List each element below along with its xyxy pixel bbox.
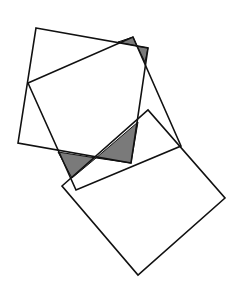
square-rotated [28, 37, 181, 190]
shaded-regions [58, 37, 148, 178]
diagram-canvas [0, 0, 244, 291]
rectangle-lower [62, 110, 225, 275]
